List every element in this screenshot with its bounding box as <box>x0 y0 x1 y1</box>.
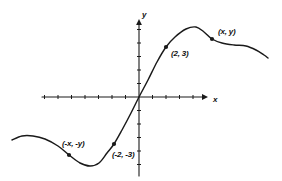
x-axis-label: x <box>213 95 217 104</box>
coordinate-plane-svg <box>0 0 282 181</box>
data-point-dot <box>112 142 116 146</box>
graph-figure: y x (2, 3) (x, y) (-x, -y) (-2, -3) <box>0 0 282 181</box>
x-axis-arrow-icon <box>202 94 208 100</box>
point-label-2-3: (2, 3) <box>171 49 188 58</box>
data-point-dot <box>210 37 214 41</box>
data-point-dot <box>164 45 168 49</box>
y-axis-arrow-icon <box>136 19 142 25</box>
data-point-dot <box>67 153 71 157</box>
point-label-x-y: (x, y) <box>218 27 235 36</box>
y-axis-label: y <box>142 10 146 19</box>
point-label-neg-x-neg-y: (-x, -y) <box>62 139 84 148</box>
point-label-neg2-neg3: (-2, -3) <box>112 150 134 159</box>
function-curve <box>12 27 268 166</box>
